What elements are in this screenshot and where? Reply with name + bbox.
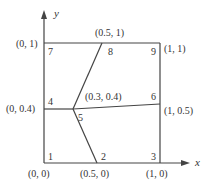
- y-axis-label: y: [53, 7, 59, 19]
- y-axis-arrow-icon: [41, 10, 47, 19]
- coord-label-8: (0.5, 1): [95, 27, 124, 39]
- mesh-lines: [44, 43, 160, 163]
- node-label-5: 5: [78, 112, 83, 123]
- node-label-6: 6: [151, 91, 156, 102]
- coord-label-7: (0, 1): [16, 38, 38, 50]
- edge-5-2: [73, 109, 97, 163]
- x-axis-label: x: [194, 156, 200, 168]
- node-label-8: 8: [108, 46, 113, 57]
- node-label-2: 2: [101, 151, 106, 162]
- axes: [44, 16, 184, 163]
- coord-label-1: (0, 0): [28, 168, 50, 180]
- coord-label-6: (1, 0.5): [164, 105, 193, 117]
- coord-label-3: (1, 0): [146, 168, 168, 180]
- coord-label-4: (0, 0.4): [6, 103, 35, 115]
- node-label-3: 3: [151, 151, 156, 162]
- mesh-diagram: y x 1 2 3 4 5 6 7 8 9 (0, 0) (0.5, 0) (1…: [0, 0, 211, 187]
- node-label-7: 7: [48, 46, 53, 57]
- coord-label-5: (0.3, 0.4): [85, 91, 122, 103]
- coord-label-2: (0.5, 0): [80, 168, 109, 180]
- node-label-9: 9: [151, 46, 156, 57]
- x-axis-arrow-icon: [181, 160, 190, 166]
- coord-label-9: (1, 1): [164, 43, 186, 55]
- edge-5-6: [73, 104, 160, 109]
- node-label-4: 4: [48, 96, 53, 107]
- node-label-1: 1: [48, 151, 53, 162]
